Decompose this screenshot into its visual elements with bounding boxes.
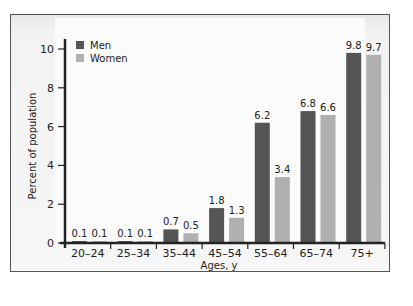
bar-value-label: 1.3 xyxy=(229,205,245,216)
bar-chart: 0246810 0.10.10.10.10.70.51.81.36.23.46.… xyxy=(0,0,413,306)
x-tick-label: 55–64 xyxy=(254,247,288,260)
bar-women xyxy=(183,233,198,243)
legend-label-women: Women xyxy=(90,53,128,64)
bar-value-label: 6.6 xyxy=(320,102,336,113)
bar-men xyxy=(346,53,361,243)
bar-value-label: 6.2 xyxy=(254,110,270,121)
y-axis-label: Percent of population xyxy=(27,93,38,200)
bar-women xyxy=(366,55,381,243)
bar-men xyxy=(163,229,178,243)
bar-value-label: 6.8 xyxy=(300,98,316,109)
bar-women xyxy=(321,115,336,243)
bar-value-label: 0.1 xyxy=(117,228,133,239)
x-tick-label: 45–54 xyxy=(208,247,242,260)
legend-swatch-men xyxy=(76,41,84,49)
bar-value-label: 3.4 xyxy=(274,164,290,175)
bar-value-label: 0.1 xyxy=(137,228,153,239)
bar-value-label: 9.7 xyxy=(366,42,382,53)
bar-women xyxy=(229,218,244,243)
bars: 0.10.10.10.10.70.51.81.36.23.46.86.69.89… xyxy=(72,40,382,243)
x-tick-label: 35–44 xyxy=(163,247,197,260)
bar-men xyxy=(209,208,224,243)
x-tick-label: 75+ xyxy=(350,247,373,260)
legend-label-men: Men xyxy=(90,40,111,51)
legend: Men Women xyxy=(76,40,128,64)
bar-men xyxy=(255,123,270,243)
bar-value-label: 9.8 xyxy=(346,40,362,51)
y-tick-label: 0 xyxy=(47,237,54,250)
y-axis: 0246810 xyxy=(40,39,65,250)
bar-women xyxy=(275,177,290,243)
y-tick-label: 10 xyxy=(40,43,54,56)
y-tick-label: 2 xyxy=(47,198,54,211)
y-tick-label: 6 xyxy=(47,121,54,134)
bar-value-label: 0.5 xyxy=(183,220,199,231)
y-tick-label: 4 xyxy=(47,159,54,172)
y-tick-label: 8 xyxy=(47,82,54,95)
x-axis-label: Ages, y xyxy=(201,260,238,271)
x-axis: 20–2425–3435–4445–5455–6465–7475+ xyxy=(60,243,385,260)
bar-value-label: 0.1 xyxy=(92,228,108,239)
x-tick-label: 20–24 xyxy=(71,247,105,260)
x-tick-label: 65–74 xyxy=(300,247,334,260)
bar-value-label: 0.1 xyxy=(72,228,88,239)
legend-swatch-women xyxy=(76,54,84,62)
bar-value-label: 1.8 xyxy=(209,195,225,206)
x-tick-label: 25–34 xyxy=(117,247,151,260)
bar-men xyxy=(301,111,316,243)
bar-value-label: 0.7 xyxy=(163,216,179,227)
